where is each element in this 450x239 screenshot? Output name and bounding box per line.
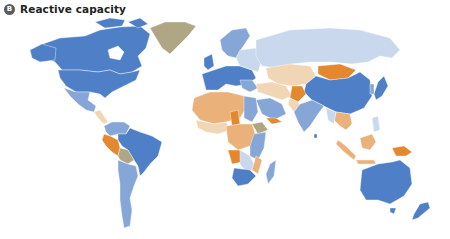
region-saudi-arabia bbox=[256, 98, 286, 120]
region-mozambique bbox=[252, 156, 262, 174]
region-russia bbox=[256, 28, 400, 68]
region-new-zealand bbox=[412, 202, 430, 220]
region-chad bbox=[230, 110, 240, 126]
region-indochina bbox=[334, 112, 352, 130]
region-central-america bbox=[94, 110, 108, 124]
region-egypt-sudan bbox=[244, 96, 258, 122]
region-canada bbox=[40, 26, 150, 74]
region-south-africa bbox=[232, 168, 256, 186]
region-canada-islands bbox=[95, 18, 148, 28]
region-madagascar bbox=[266, 160, 276, 184]
region-greenland bbox=[150, 22, 196, 54]
region-borneo bbox=[360, 134, 376, 150]
region-alaska bbox=[30, 44, 56, 62]
region-papua-new-guinea bbox=[392, 146, 412, 156]
region-japan bbox=[374, 76, 388, 100]
region-australia bbox=[360, 160, 412, 204]
region-argentina-chile bbox=[118, 160, 138, 228]
region-tasmania bbox=[390, 208, 396, 214]
region-sumatra bbox=[336, 140, 356, 160]
region-balkans bbox=[240, 80, 258, 92]
world-choropleth-map bbox=[0, 0, 450, 239]
region-yemen bbox=[266, 118, 282, 124]
region-uk bbox=[204, 54, 214, 70]
region-korea bbox=[370, 84, 374, 94]
region-sri-lanka bbox=[314, 134, 317, 138]
region-peru bbox=[102, 134, 120, 156]
region-java bbox=[356, 160, 376, 164]
region-philippines bbox=[372, 116, 380, 132]
